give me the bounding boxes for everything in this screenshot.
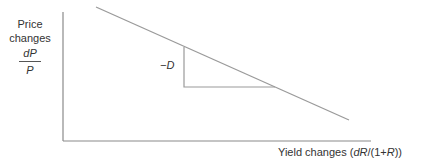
- y-axis-label: Price changes dP P: [4, 17, 56, 77]
- fraction-numerator: dP: [19, 46, 40, 62]
- y-axis-label-line1: Price: [4, 17, 56, 31]
- x-label-middle: /(1+: [367, 146, 386, 158]
- x-label-R: R: [387, 146, 395, 158]
- duration-diagram: Price changes dP P −D Yield changes (dR/…: [0, 0, 421, 164]
- x-label-dR: dR: [353, 146, 367, 158]
- y-axis-fraction: dP P: [19, 46, 40, 77]
- x-label-suffix: )): [395, 146, 402, 158]
- diagram-canvas: [0, 0, 421, 164]
- y-axis-label-line2: changes: [4, 31, 56, 45]
- fraction-denominator: P: [19, 62, 40, 77]
- x-axis-label: Yield changes (dR/(1+R)): [278, 146, 402, 158]
- x-label-prefix: Yield changes (: [278, 146, 353, 158]
- slope-label: −D: [160, 59, 174, 71]
- price-yield-line: [96, 7, 349, 120]
